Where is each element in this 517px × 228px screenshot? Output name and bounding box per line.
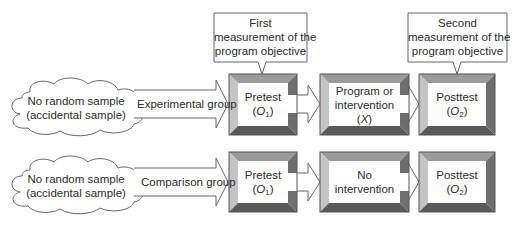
- box-title: Posttest: [428, 168, 486, 182]
- cloud-line: (accidental sample): [14, 186, 138, 200]
- subscript: 2: [459, 188, 463, 197]
- callout-line: program objective: [214, 44, 307, 58]
- box-title: Pretest: [238, 90, 288, 104]
- subscript: 2: [459, 110, 463, 119]
- callout-line: First: [214, 16, 307, 30]
- box-title: intervention: [329, 182, 400, 196]
- cloud-line: No random sample: [14, 172, 138, 186]
- symbol-o: O: [450, 183, 459, 195]
- callout-second-text: Second measurement of the program object…: [408, 16, 507, 58]
- box-symbol: (O1): [238, 104, 288, 122]
- symbol-o: O: [450, 105, 459, 117]
- comparison-group-label: Comparison group: [141, 175, 236, 189]
- box-title: Pretest: [238, 168, 288, 182]
- cloud-text-experimental: No random sample (accidental sample): [14, 94, 138, 122]
- no-intervention-label: No intervention: [329, 168, 400, 196]
- box-symbol: (O2): [428, 182, 486, 200]
- callout-first-text: First measurement of the program objecti…: [214, 16, 307, 58]
- box-title: No: [329, 168, 400, 182]
- subscript: 1: [265, 110, 269, 119]
- callout-line: Second: [408, 16, 507, 30]
- box-symbol: (O1): [238, 182, 288, 200]
- pretest-label-comparison: Pretest (O1): [238, 168, 288, 200]
- box-symbol: (O2): [428, 104, 486, 122]
- symbol-o: O: [256, 183, 265, 195]
- symbol-o: O: [256, 105, 265, 117]
- pretest-label-experimental: Pretest (O1): [238, 90, 288, 122]
- box-title: Program or: [329, 84, 400, 98]
- posttest-label-experimental: Posttest (O2): [428, 90, 486, 122]
- cloud-text-comparison: No random sample (accidental sample): [14, 172, 138, 200]
- program-label: Program or intervention (X): [329, 84, 400, 126]
- symbol-x: X: [361, 113, 369, 125]
- callout-line: program objective: [408, 44, 507, 58]
- box-title: Posttest: [428, 90, 486, 104]
- cloud-line: (accidental sample): [14, 108, 138, 122]
- posttest-label-comparison: Posttest (O2): [428, 168, 486, 200]
- subscript: 1: [265, 188, 269, 197]
- box-symbol: (X): [329, 112, 400, 126]
- callout-line: measurement of the: [214, 30, 307, 44]
- cloud-line: No random sample: [14, 94, 138, 108]
- box-title: intervention: [329, 98, 400, 112]
- callout-line: measurement of the: [408, 30, 507, 44]
- experimental-group-label: Experimental group: [137, 97, 237, 111]
